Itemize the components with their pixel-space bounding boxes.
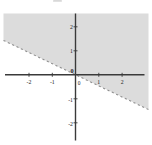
inequality-graph-figure: -2 -1 1 2 2 1 -1 -2 0 0 [0,0,152,145]
y-tick-label-1: 1 [70,48,73,54]
cropped-text-artifact [53,0,62,2]
y-tick-label-neg2: -2 [68,121,73,127]
y-tick-label-neg1: -1 [68,97,73,103]
x-tick-label-neg2: -2 [27,79,32,85]
x-tick-label-2: 2 [121,79,124,85]
x-tick-label-1: 1 [97,79,100,85]
y-tick-label-2: 2 [70,24,73,30]
origin-label-below-axis: 0 [78,80,81,86]
origin-label: 0 [70,67,73,74]
x-tick-label-neg1: -1 [50,79,55,85]
inequality-graph-canvas: -2 -1 1 2 2 1 -1 -2 0 0 [0,0,152,145]
